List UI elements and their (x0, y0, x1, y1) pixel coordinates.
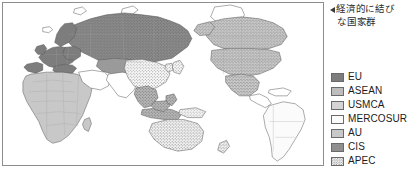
legend-swatch-eu (331, 73, 344, 82)
legend-label-apec: APEC (348, 156, 376, 166)
legend-label-cis: CIS (348, 142, 365, 152)
legend-swatch-mercosur (331, 115, 344, 124)
legend-item-apec[interactable]: APEC (331, 154, 403, 168)
legend-swatch-cis (331, 143, 344, 152)
legend-swatch-au (331, 129, 344, 138)
legend-item-asean[interactable]: ASEAN (331, 84, 403, 98)
world-map-graphic (3, 3, 323, 165)
legend-swatch-apec (331, 157, 344, 166)
legend-item-usmca[interactable]: USMCA (331, 98, 403, 112)
legend-swatch-usmca (331, 101, 344, 110)
legend-item-mercosur[interactable]: MERCOSUR (331, 112, 403, 126)
left-triangle-icon (330, 7, 335, 13)
legend-label-asean: ASEAN (348, 86, 382, 96)
world-map-frame (2, 2, 324, 166)
caption-line-1-text: 経済的に結び (336, 3, 395, 14)
map-caption: 経済的に結び な国家群 (330, 2, 403, 28)
legend-swatch-asean (331, 87, 344, 96)
legend-label-mercosur: MERCOSUR (348, 114, 407, 124)
legend-item-eu[interactable]: EU (331, 70, 403, 84)
legend-item-cis[interactable]: CIS (331, 140, 403, 154)
map-legend: EU ASEAN USMCA MERCOSUR AU CIS (331, 70, 403, 168)
caption-line-2: な国家群 (330, 15, 403, 28)
legend-label-au: AU (348, 128, 362, 138)
legend-item-au[interactable]: AU (331, 126, 403, 140)
caption-line-1: 経済的に結び (330, 2, 403, 15)
legend-label-eu: EU (348, 72, 362, 82)
legend-label-usmca: USMCA (348, 100, 385, 110)
apec-pattern-icon (332, 158, 343, 165)
